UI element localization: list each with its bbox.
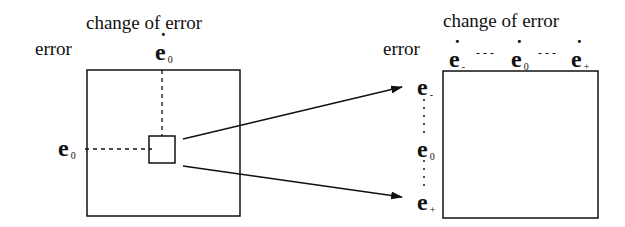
col-separator-2: - - -	[538, 46, 556, 61]
right-row-marker-neg: e-	[417, 75, 431, 99]
right-row-marker-zero: e0	[417, 137, 433, 161]
left-grid-box	[87, 70, 240, 216]
col-separator-1: - - -	[476, 46, 494, 61]
diagram-graphics	[0, 0, 625, 227]
right-row-marker-pos: e+	[417, 190, 433, 214]
right-col-marker-neg: ˙e-	[449, 47, 463, 71]
right-col-marker-pos: ˙e+	[571, 47, 587, 71]
right-column-label: change of error	[443, 10, 559, 32]
left-column-label: change of error	[86, 12, 202, 34]
selected-cell-box	[149, 136, 175, 163]
left-row-marker: e0	[58, 136, 74, 160]
arrow-lower	[183, 166, 402, 197]
arrow-upper	[183, 87, 402, 139]
right-row-label: error	[383, 38, 420, 60]
right-grid-box	[443, 71, 598, 218]
left-col-marker: ˙e0	[155, 40, 171, 64]
right-col-marker-zero: ˙e0	[511, 47, 527, 71]
left-row-label: error	[35, 38, 72, 60]
